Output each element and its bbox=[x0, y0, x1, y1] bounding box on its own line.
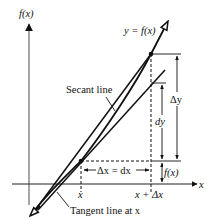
curve-label: y = f(x) bbox=[123, 25, 156, 37]
secant-line bbox=[36, 54, 151, 209]
derivative-diagram: f(x) x Δy dy f(x) bbox=[0, 0, 208, 220]
x-axis-label: x bbox=[198, 179, 204, 190]
delta-x-label: Δx = dx bbox=[97, 165, 131, 176]
point-x bbox=[79, 159, 84, 164]
delta-y-measure bbox=[151, 54, 181, 161]
secant-label: Secant line bbox=[66, 84, 113, 95]
delta-y-label: Δy bbox=[170, 94, 183, 105]
x-tick-label-x-plus-dx: x + Δx bbox=[134, 189, 163, 200]
x-tick-label-x: x bbox=[77, 189, 83, 200]
fx-label: f(x) bbox=[164, 167, 179, 179]
tangent-leader bbox=[57, 192, 69, 207]
function-curve bbox=[33, 25, 166, 213]
y-axis-label: f(x) bbox=[19, 8, 34, 20]
dy-label: dy bbox=[155, 116, 165, 127]
tangent-label: Tangent line at x bbox=[70, 205, 141, 216]
